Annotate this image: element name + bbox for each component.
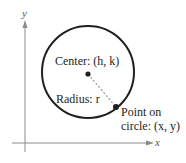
radius-label: Radius: r xyxy=(56,93,100,105)
center-label: Center: (h, k) xyxy=(55,55,119,67)
x-axis-label: x xyxy=(155,137,160,148)
y-axis-label: y xyxy=(22,8,27,19)
x-axis-arrow-icon xyxy=(146,141,154,146)
y-axis-arrow-icon xyxy=(23,20,28,28)
point-label-line2: circle: (x, y) xyxy=(121,120,180,132)
point-label-line1: Point on xyxy=(121,106,161,118)
center-point xyxy=(85,71,90,76)
point-on-circle xyxy=(113,104,119,110)
